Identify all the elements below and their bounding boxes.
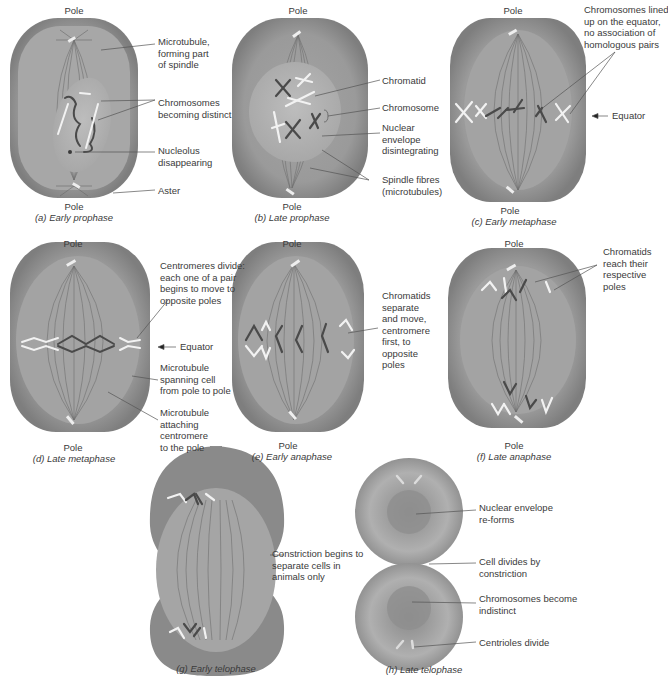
caption-c: (c) Early metaphase: [444, 216, 584, 227]
label-constriction-begins: Constriction begins toseparate cells ina…: [272, 548, 363, 583]
pole-label-b-bottom: Pole: [262, 201, 322, 212]
pole-label-a-bottom: Pole: [44, 201, 104, 212]
pole-label-a-top: Pole: [44, 5, 104, 16]
pole-label-c-bottom: Pole: [480, 205, 540, 216]
label-chromosomes-indistinct: Chromosomes becomeindistinct: [479, 593, 577, 616]
label-equator-d: Equator: [180, 341, 213, 353]
label-equator-c: Equator: [612, 110, 645, 122]
pole-label-f-top: Pole: [484, 238, 544, 249]
pole-label-b-top: Pole: [268, 5, 328, 16]
label-nuclear-envelope-reforms: Nuclear envelopere-forms: [479, 502, 553, 525]
caption-h: (h) Late telophase: [354, 664, 494, 675]
pole-label-e-bottom: Pole: [258, 440, 318, 451]
pole-label-f-bottom: Pole: [484, 440, 544, 451]
pole-label-e-top: Pole: [262, 238, 322, 249]
caption-g: (g) Early telophase: [146, 663, 286, 674]
label-aster: Aster: [158, 185, 180, 197]
pole-label-d-top: Pole: [43, 238, 103, 249]
label-centrioles-divide: Centrioles divide: [479, 637, 549, 649]
cell-late-telophase: [355, 458, 463, 671]
cell-early-prophase: [10, 18, 138, 198]
label-spindle-fibres: Spindle fibres(microtubules): [382, 174, 442, 197]
caption-e: (e) Early anaphase: [222, 451, 362, 462]
cell-late-anaphase: [448, 248, 586, 428]
label-cell-divides: Cell divides byconstriction: [479, 556, 540, 579]
label-chromatids-separate: Chromatidsseparateand move,centromerefir…: [382, 290, 431, 371]
label-centromeres-divide: Centromeres divide:each one of a pairbeg…: [160, 260, 245, 306]
label-microtubule-spanning: Microtubulespanning cellfrom pole to pol…: [160, 362, 231, 397]
label-microtubule-spindle: Microtubule,forming partof spindle: [158, 36, 210, 71]
label-nucleolus: Nucleolusdisappearing: [158, 145, 212, 168]
label-chromosomes-lined-up: Chromosomes linedup on the equator,no as…: [584, 4, 668, 50]
caption-a: (a) Early prophase: [4, 212, 144, 223]
pole-label-c-top: Pole: [483, 5, 543, 16]
cell-early-metaphase: [450, 18, 586, 202]
label-nuclear-envelope-disintegrating: Nuclearenvelopedisintegrating: [382, 122, 439, 157]
cell-early-anaphase: [232, 242, 364, 432]
pole-label-d-bottom: Pole: [43, 442, 103, 453]
cell-early-telophase: [150, 446, 284, 676]
label-chromatid: Chromatid: [382, 75, 426, 87]
label-microtubule-attaching: Microtubuleattachingcentromereto the pol…: [160, 407, 209, 453]
label-chromosome: Chromosome: [382, 102, 439, 114]
caption-f: (f) Late anaphase: [444, 451, 584, 462]
label-chromatids-reach-poles: Chromatidsreach theirrespectivepoles: [603, 246, 652, 292]
caption-d: (d) Late metaphase: [4, 453, 144, 464]
cell-late-prophase: [232, 18, 368, 198]
caption-b: (b) Late prophase: [222, 212, 362, 223]
label-chromosomes-distinct: Chromosomesbecoming distinct: [158, 97, 231, 120]
